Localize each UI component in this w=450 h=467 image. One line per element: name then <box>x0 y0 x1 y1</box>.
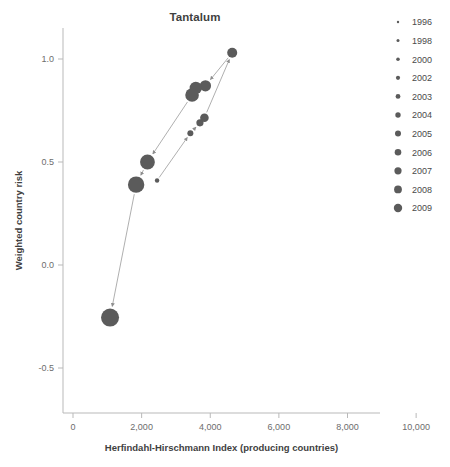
legend-marker-2006 <box>395 149 402 156</box>
trajectory-segment <box>159 138 187 178</box>
legend-marker-2009 <box>394 204 402 212</box>
legend-label-2000[interactable]: 2000 <box>412 55 432 65</box>
legend-label-1996[interactable]: 1996 <box>412 17 432 27</box>
legend-label-2008[interactable]: 2008 <box>412 185 432 195</box>
x-tick-label: 2,000 <box>130 422 153 432</box>
legend-marker-2004 <box>395 112 400 117</box>
legend-marker-1996 <box>397 21 399 23</box>
legend-marker-2002 <box>396 76 400 80</box>
legend-marker-2005 <box>395 131 401 137</box>
trajectory-segment <box>112 194 134 306</box>
trajectory-segment <box>141 170 144 175</box>
scatter-plot: 02,0004,0006,0008,00010,0001.00.50.0-0.5… <box>0 0 450 467</box>
legend-label-2002[interactable]: 2002 <box>412 73 432 83</box>
legend-label-2003[interactable]: 2003 <box>412 92 432 102</box>
legend-label-1998[interactable]: 1998 <box>412 36 432 46</box>
legend-marker-2008 <box>394 186 402 194</box>
legend-label-2006[interactable]: 2006 <box>412 148 432 158</box>
x-tick-label: 10,000 <box>402 422 430 432</box>
legend-marker-2007 <box>394 167 401 174</box>
y-tick-label: 1.0 <box>41 54 54 64</box>
x-axis-label: Herfindahl-Hirschmann Index (producing c… <box>105 442 338 453</box>
legend-marker-2003 <box>396 94 401 99</box>
data-point-2002[interactable]: 2002: 3830, 0.715 <box>200 113 209 122</box>
legend-label-2009[interactable]: 2009 <box>412 203 432 213</box>
data-point-2006[interactable]: 2006: 3470, 0.825 <box>185 88 199 102</box>
x-tick-label: 4,000 <box>199 422 222 432</box>
legend-marker-1998 <box>397 39 400 42</box>
data-point-2008[interactable]: 2008: 1840, 0.39 <box>128 176 144 192</box>
axes: 02,0004,0006,0008,00010,0001.00.50.0-0.5… <box>13 28 430 453</box>
y-tick-label: -0.5 <box>38 363 54 373</box>
y-tick-label: 0.5 <box>41 157 54 167</box>
x-tick-label: 8,000 <box>336 422 359 432</box>
legend-label-2005[interactable]: 2005 <box>412 129 432 139</box>
data-point-2003[interactable]: 2003: 4640, 1.03 <box>227 48 237 58</box>
data-point-2007[interactable]: 2007: 2170, 0.5 <box>140 155 155 170</box>
chart-container: Tantalum 02,0004,0006,0008,00010,0001.00… <box>0 0 450 467</box>
legend: 1996199820002002200320042005200620072008… <box>394 17 432 213</box>
trajectory-segment <box>193 127 195 130</box>
data-point-1998[interactable]: 1998: 3420, 0.64 <box>187 130 193 136</box>
x-tick-label: 6,000 <box>268 422 291 432</box>
data-point-1996[interactable]: 1996: 2450, 0.41 <box>155 178 159 182</box>
legend-label-2004[interactable]: 2004 <box>412 110 432 120</box>
y-tick-label: 0.0 <box>41 260 54 270</box>
y-axis-label: Weighted country risk <box>13 170 24 270</box>
legend-marker-2000 <box>396 57 400 61</box>
legend-label-2007[interactable]: 2007 <box>412 166 432 176</box>
trajectory-segment <box>153 102 188 154</box>
data-point-2009[interactable]: 2009: 1080, -0.255 <box>101 309 119 327</box>
x-tick-label: 0 <box>70 422 75 432</box>
